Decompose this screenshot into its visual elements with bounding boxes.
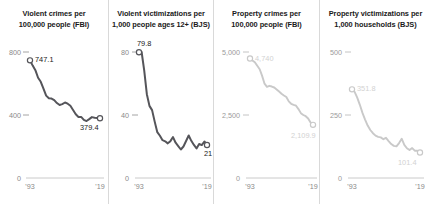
chart-panel-0: Violent crimes per 100,000 people (FBI)0… [0, 0, 108, 204]
end-point-marker-0 [97, 116, 102, 121]
end-point-marker-1 [204, 142, 209, 147]
y-tick-label-3-2: 500 [330, 48, 342, 57]
x-tick-label-3-1: '19 [415, 182, 424, 191]
x-tick-label-3-0: '93 [347, 182, 356, 191]
data-line-3 [352, 89, 420, 152]
start-point-marker-3 [349, 87, 354, 92]
x-tick-label-0-0: '93 [25, 182, 34, 191]
y-tick-label-2-2: 5,000 [222, 48, 240, 57]
plot-area-2 [214, 0, 319, 204]
data-line-0 [30, 60, 100, 121]
chart-panel-3: Property victimizations per 1,000 househ… [319, 0, 431, 204]
x-tick-label-2-1: '19 [308, 182, 317, 191]
crime-trends-small-multiples: Violent crimes per 100,000 people (FBI)0… [0, 0, 431, 204]
chart-panel-2: Property crimes per 100,000 people (FBI)… [213, 0, 319, 204]
x-tick-label-2-0: '93 [245, 182, 254, 191]
start-value-label-0: 747.1 [35, 55, 54, 64]
start-point-marker-0 [27, 58, 32, 63]
end-value-label-3: 101.4 [398, 158, 417, 167]
y-tick-label-3-0: 0 [338, 174, 342, 183]
start-value-label-1: 79.8 [137, 39, 151, 48]
data-line-1 [139, 52, 207, 149]
y-tick-label-1-2: 80 [121, 48, 129, 57]
end-value-label-2: 2,109.9 [291, 131, 316, 140]
x-tick-label-1-0: '93 [134, 182, 143, 191]
y-tick-label-1-1: 40 [121, 111, 129, 120]
end-value-label-0: 379.4 [80, 123, 99, 132]
y-tick-label-2-1: 2,500 [222, 111, 240, 120]
start-value-label-2: 4,740 [255, 54, 274, 63]
x-tick-label-0-1: '19 [95, 182, 104, 191]
x-tick-label-1-1: '19 [202, 182, 211, 191]
y-tick-label-1-0: 0 [125, 174, 129, 183]
y-tick-label-0-1: 400 [9, 111, 21, 120]
start-value-label-3: 351.8 [357, 84, 376, 93]
y-tick-label-3-1: 250 [330, 111, 342, 120]
end-point-marker-3 [417, 150, 422, 155]
end-value-label-1: 21 [204, 149, 212, 158]
start-point-marker-1 [136, 50, 141, 55]
chart-panel-1: Violent victimizations per 1,000 people … [108, 0, 213, 204]
end-point-marker-2 [310, 122, 315, 127]
plot-area-3 [320, 0, 431, 204]
data-line-2 [250, 59, 313, 125]
y-tick-label-0-0: 0 [17, 174, 21, 183]
y-tick-label-0-2: 800 [9, 48, 21, 57]
y-tick-label-2-0: 0 [236, 174, 240, 183]
start-point-marker-2 [247, 56, 252, 61]
